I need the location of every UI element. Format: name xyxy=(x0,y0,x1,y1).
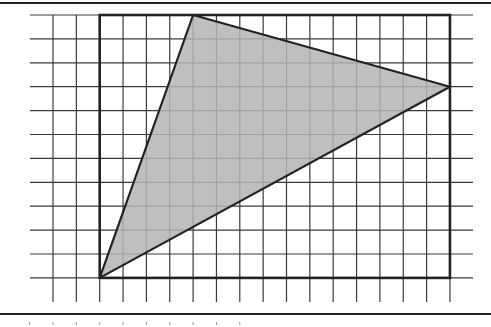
bottom-tick-marks xyxy=(30,322,240,325)
shaded-triangle xyxy=(100,15,450,278)
grid-triangle-diagram xyxy=(0,0,491,327)
